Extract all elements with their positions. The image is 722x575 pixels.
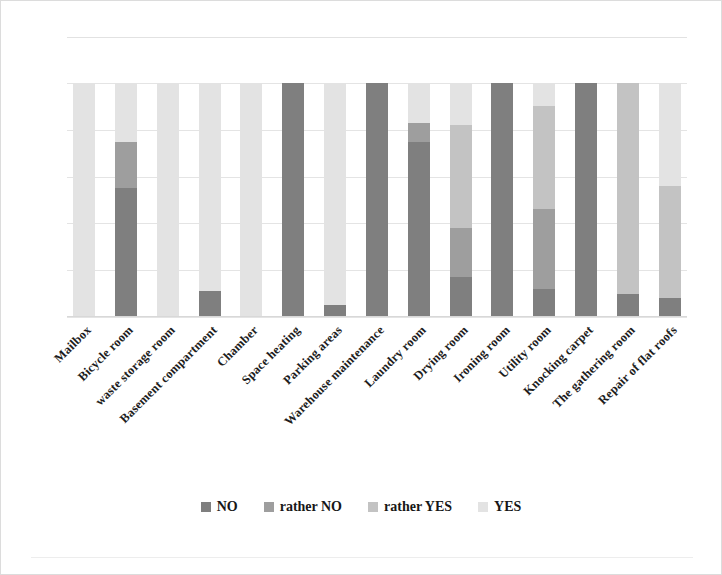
bar-segment <box>73 83 95 317</box>
bar-segment <box>450 83 472 125</box>
bar-segment <box>491 83 513 317</box>
bar-segment <box>282 83 304 317</box>
bar-segment <box>533 106 555 209</box>
bar-column[interactable] <box>659 83 681 317</box>
legend-item[interactable]: NO <box>201 499 238 515</box>
bar-segment <box>617 294 639 317</box>
bar-segment <box>324 83 346 305</box>
bar-segment <box>659 186 681 298</box>
bar-segment <box>115 83 137 142</box>
bar-segment <box>575 83 597 317</box>
bar-column[interactable] <box>533 83 555 317</box>
bar-series-group <box>67 83 687 317</box>
bar-segment <box>157 83 179 317</box>
legend-label: rather NO <box>280 499 342 515</box>
bar-segment <box>199 291 221 317</box>
legend-label: YES <box>494 499 521 515</box>
legend-swatch-icon <box>264 502 274 512</box>
bar-segment <box>450 277 472 317</box>
bar-column[interactable] <box>617 83 639 317</box>
bar-column[interactable] <box>73 83 95 317</box>
bar-column[interactable] <box>157 83 179 317</box>
x-axis-tick-label: Repair of flat roofs <box>596 323 681 408</box>
top-gridline <box>67 37 687 38</box>
bar-segment <box>533 209 555 289</box>
bar-column[interactable] <box>199 83 221 317</box>
bar-segment <box>450 125 472 228</box>
bar-segment <box>659 298 681 317</box>
legend-swatch-icon <box>478 502 488 512</box>
bar-segment <box>115 142 137 189</box>
bar-segment <box>617 83 639 294</box>
bar-segment <box>115 188 137 317</box>
bar-column[interactable] <box>282 83 304 317</box>
legend-label: NO <box>217 499 238 515</box>
bar-column[interactable] <box>240 83 262 317</box>
legend-swatch-icon <box>201 502 211 512</box>
chart-container: MailboxBicycle roomwaste storage roomBas… <box>0 0 722 575</box>
legend-item[interactable]: rather NO <box>264 499 342 515</box>
bar-column[interactable] <box>408 83 430 317</box>
bar-segment <box>408 83 430 123</box>
chart-legend: NOrather NOrather YESYES <box>1 499 721 515</box>
bottom-divider <box>31 557 693 558</box>
bar-segment <box>240 83 262 317</box>
legend-item[interactable]: rather YES <box>368 499 452 515</box>
bar-segment <box>533 289 555 317</box>
bar-segment <box>408 123 430 142</box>
bar-segment <box>450 228 472 277</box>
bar-segment <box>533 83 555 106</box>
bar-column[interactable] <box>450 83 472 317</box>
bar-column[interactable] <box>366 83 388 317</box>
legend-item[interactable]: YES <box>478 499 521 515</box>
x-axis-labels: MailboxBicycle roomwaste storage roomBas… <box>67 317 687 492</box>
bar-column[interactable] <box>115 83 137 317</box>
legend-swatch-icon <box>368 502 378 512</box>
plot-area <box>67 83 687 317</box>
legend-label: rather YES <box>384 499 452 515</box>
bar-segment <box>659 83 681 186</box>
bar-column[interactable] <box>324 83 346 317</box>
bar-segment <box>408 142 430 318</box>
bar-column[interactable] <box>491 83 513 317</box>
bar-segment <box>366 83 388 317</box>
bar-column[interactable] <box>575 83 597 317</box>
bar-segment <box>199 83 221 291</box>
